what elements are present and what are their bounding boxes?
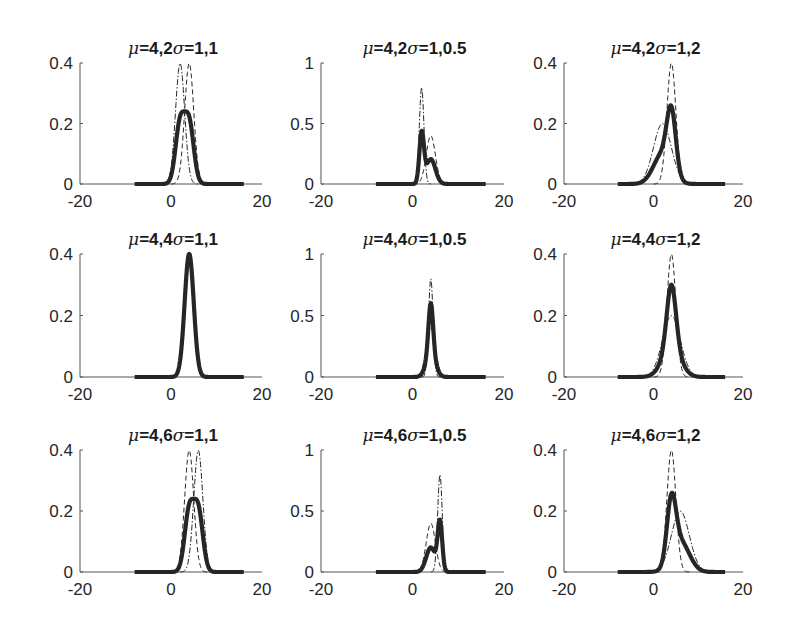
x-tick-label: 20 (734, 192, 753, 211)
x-tick-label: 0 (166, 385, 175, 404)
y-tick-label: 0.2 (533, 502, 557, 521)
x-tick-label: 20 (734, 580, 753, 599)
title-mu: μ (128, 425, 139, 445)
y-tick-label: 1 (305, 441, 314, 460)
y-tick-label: 1 (305, 245, 314, 264)
x-tick-label: 0 (649, 385, 658, 404)
subplot-title: μ=4,6σ=1,2 (611, 425, 701, 445)
title-mu: μ (128, 229, 139, 249)
y-tick-label: 0.4 (49, 245, 73, 264)
title-mu: μ (611, 38, 622, 58)
title-mu-vals: =4,6 (622, 426, 656, 445)
subplot-title: μ=4,4σ=1,1 (128, 229, 218, 249)
title-sigma: σ (655, 425, 667, 445)
x-tick-label: -20 (68, 385, 93, 404)
x-tick-label: -20 (552, 580, 577, 599)
title-mu: μ (128, 38, 139, 58)
x-tick-label: -20 (552, 385, 577, 404)
y-tick-label: 0.4 (49, 54, 73, 73)
subplot-title: μ=4,2σ=1,2 (611, 38, 701, 58)
x-tick-label: 0 (166, 192, 175, 211)
y-tick-label: 0.5 (290, 115, 314, 134)
title-sigma: σ (655, 38, 667, 58)
y-tick-label: 0.4 (49, 441, 73, 460)
y-tick-label: 0.2 (49, 502, 73, 521)
title-sigma-vals: =1,0.5 (419, 39, 467, 58)
title-mu-vals: =4,4 (622, 230, 656, 249)
title-sigma: σ (407, 229, 419, 249)
title-sigma-vals: =1,2 (667, 39, 701, 58)
y-tick-label: 0.4 (533, 441, 557, 460)
title-sigma-vals: =1,1 (184, 230, 218, 249)
x-tick-label: 0 (166, 580, 175, 599)
x-tick-label: 20 (495, 192, 514, 211)
title-mu: μ (363, 38, 374, 58)
title-sigma: σ (407, 38, 419, 58)
title-mu-vals: =4,4 (374, 230, 408, 249)
y-tick-label: 0.2 (533, 115, 557, 134)
title-mu-vals: =4,4 (139, 230, 173, 249)
x-tick-label: -20 (68, 192, 93, 211)
subplot-title: μ=4,6σ=1,1 (128, 425, 218, 445)
y-tick-label: 0.4 (533, 245, 557, 264)
y-tick-label: 0.2 (49, 307, 73, 326)
x-tick-label: 20 (253, 192, 272, 211)
x-tick-label: 0 (408, 192, 417, 211)
x-tick-label: 0 (408, 385, 417, 404)
x-tick-label: -20 (309, 192, 334, 211)
x-tick-label: -20 (309, 385, 334, 404)
title-sigma-vals: =1,2 (667, 230, 701, 249)
title-sigma: σ (407, 425, 419, 445)
x-tick-label: -20 (552, 192, 577, 211)
title-mu: μ (611, 425, 622, 445)
x-tick-label: -20 (68, 580, 93, 599)
title-sigma-vals: =1,1 (184, 426, 218, 445)
y-tick-label: 1 (305, 54, 314, 73)
title-mu-vals: =4,2 (374, 39, 408, 58)
x-tick-label: 20 (253, 385, 272, 404)
x-tick-label: 0 (649, 192, 658, 211)
title-mu-vals: =4,6 (374, 426, 408, 445)
title-mu-vals: =4,2 (139, 39, 173, 58)
y-tick-label: 0.4 (533, 54, 557, 73)
subplot-title: μ=4,2σ=1,0.5 (363, 38, 467, 58)
title-sigma: σ (655, 229, 667, 249)
y-tick-label: 0.2 (49, 115, 73, 134)
y-tick-label: 0.2 (533, 307, 557, 326)
title-mu-vals: =4,2 (622, 39, 656, 58)
subplot-title: μ=4,4σ=1,2 (611, 229, 701, 249)
y-tick-label: 0.5 (290, 502, 314, 521)
x-tick-label: -20 (309, 580, 334, 599)
title-mu: μ (363, 425, 374, 445)
y-tick-label: 0.5 (290, 307, 314, 326)
title-sigma-vals: =1,0.5 (419, 230, 467, 249)
x-tick-label: 0 (649, 580, 658, 599)
subplot-grid-figure: 00.20.4-20020μ=4,2σ=1,100.51-20020μ=4,2σ… (0, 0, 795, 638)
x-tick-label: 20 (495, 385, 514, 404)
x-tick-label: 20 (253, 580, 272, 599)
title-sigma: σ (173, 229, 185, 249)
title-sigma: σ (173, 425, 185, 445)
title-mu: μ (363, 229, 374, 249)
title-mu: μ (611, 229, 622, 249)
x-tick-label: 0 (408, 580, 417, 599)
title-sigma-vals: =1,1 (184, 39, 218, 58)
x-tick-label: 20 (495, 580, 514, 599)
subplot-title: μ=4,4σ=1,0.5 (363, 229, 467, 249)
title-sigma-vals: =1,2 (667, 426, 701, 445)
title-mu-vals: =4,6 (139, 426, 173, 445)
title-sigma: σ (173, 38, 185, 58)
subplot-title: μ=4,2σ=1,1 (128, 38, 218, 58)
x-tick-label: 20 (734, 385, 753, 404)
title-sigma-vals: =1,0.5 (419, 426, 467, 445)
subplot-title: μ=4,6σ=1,0.5 (363, 425, 467, 445)
